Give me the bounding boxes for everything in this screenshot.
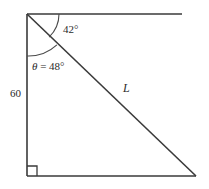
figure-canvas (0, 0, 209, 189)
side-length-label-60: 60 (10, 88, 21, 99)
hypotenuse-label-L: L (123, 82, 130, 94)
right-angle-marker (27, 166, 37, 176)
angle-label-42: 42° (63, 24, 78, 35)
geometry-figure: 42° θ = 48° 60 L (0, 0, 209, 189)
angle-arc-theta (27, 45, 57, 56)
hypotenuse-line (27, 14, 196, 176)
theta-value: = 48° (37, 60, 64, 72)
angle-arc-42 (49, 14, 59, 37)
angle-label-theta: θ = 48° (32, 61, 65, 72)
